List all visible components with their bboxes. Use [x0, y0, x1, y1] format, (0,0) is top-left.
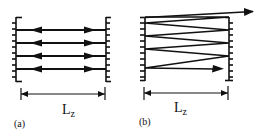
panel-b: Lz (b)	[139, 12, 253, 129]
diagram-canvas: Lz (a)	[0, 0, 264, 131]
dimension-line-a	[21, 87, 105, 100]
panel-caption-a: (a)	[14, 118, 25, 130]
dimension-label-b: Lz	[174, 100, 188, 117]
left-wall-b	[140, 17, 145, 81]
dimension-line-b	[144, 86, 228, 100]
arrow-left-icon	[30, 66, 42, 73]
zigzag-ray-b	[145, 17, 229, 69]
arrowheads-a	[30, 27, 96, 73]
panel-a: Lz (a)	[12, 17, 111, 130]
right-wall-b	[225, 17, 233, 81]
arrow-left-icon	[212, 65, 224, 73]
arrow-right-icon	[84, 40, 96, 47]
arrow-right-icon	[84, 27, 96, 34]
arrow-left-icon	[30, 40, 42, 47]
arrow-right-icon	[84, 66, 96, 73]
panel-caption-b: (b)	[139, 116, 151, 128]
dimension-label-a: Lz	[62, 102, 76, 119]
arrow-right-icon	[84, 53, 96, 60]
rays-a	[16, 30, 106, 69]
right-wall-a	[106, 17, 111, 82]
left-wall-a	[12, 17, 22, 82]
arrow-left-icon	[30, 27, 42, 34]
arrow-left-icon	[30, 53, 42, 60]
